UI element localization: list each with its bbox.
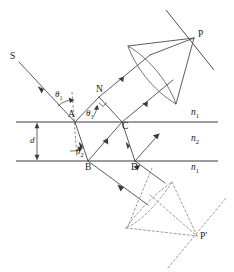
label-point-a: A xyxy=(68,110,75,120)
reflected-ray-at-d xyxy=(135,134,159,161)
medium-lower-subscript: 1 xyxy=(196,167,199,174)
ghost-ray-from-d xyxy=(128,168,152,226)
label-focus-p: P xyxy=(198,30,203,40)
optics-diagram: S N A B C D P P′ d θ1 θ1 θ2 n1 n2 n1 xyxy=(0,0,234,272)
wavefront-segment-n-to-c xyxy=(99,97,122,122)
medium-film-subscript: 2 xyxy=(196,138,199,145)
thickness-arrow-down xyxy=(35,155,40,161)
emergent-ray-from-c xyxy=(122,80,173,122)
incidence-angle-arrow xyxy=(69,98,75,103)
label-thickness-d: d xyxy=(30,136,35,145)
label-medium-lower: n1 xyxy=(191,163,199,174)
label-angle-incidence: θ1 xyxy=(55,90,63,101)
internal-angle-arrow xyxy=(94,105,99,110)
label-angle-internal: θ1 xyxy=(86,109,94,120)
label-medium-film: n2 xyxy=(191,134,199,145)
label-point-n: N xyxy=(96,85,103,95)
ghost-screen-line xyxy=(168,198,226,268)
emergent-ray-from-n xyxy=(99,55,150,97)
transmitted-ray-b-arrowhead xyxy=(117,185,124,192)
label-point-b: B xyxy=(85,163,91,173)
label-angle-refraction: θ2 xyxy=(76,147,84,158)
label-point-c: C xyxy=(122,122,128,132)
incident-ray-s-to-a xyxy=(19,62,75,122)
label-point-d: D xyxy=(131,163,138,173)
ghost-ray-upper xyxy=(172,182,197,236)
thickness-arrow-up xyxy=(35,123,40,129)
label-focus-p-prime: P′ xyxy=(200,232,207,242)
angle-internal-subscript: 1 xyxy=(90,113,93,120)
ghost-ray-lower xyxy=(126,228,197,236)
reflected-ray-d-arrowhead xyxy=(153,133,160,139)
angle-incidence-subscript: 1 xyxy=(59,94,62,101)
ghost-ray-mid xyxy=(150,195,197,236)
screen-line-at-p xyxy=(166,10,214,70)
label-medium-upper: n1 xyxy=(191,108,199,119)
emergent-ray-n-arrowhead xyxy=(118,77,124,83)
medium-upper-subscript: 1 xyxy=(196,112,199,119)
label-source-s: S xyxy=(10,52,15,62)
angle-refraction-subscript: 2 xyxy=(80,151,83,158)
converging-ray-lower-to-p xyxy=(176,38,194,104)
ghost-lens-outline xyxy=(126,182,172,228)
